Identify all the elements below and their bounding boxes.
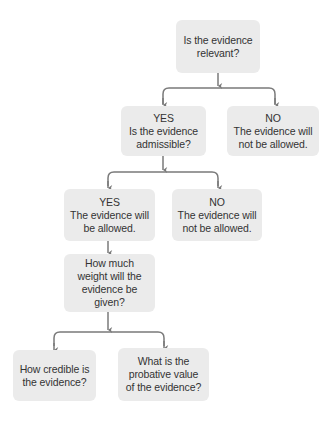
flowchart-diagram: Is the evidence relevant? YES Is the evi…	[0, 0, 331, 424]
node-text-line: Is the evidence	[183, 34, 252, 47]
node-yes-is-admissible: YES Is the evidence admissible?	[121, 106, 206, 156]
node-no-not-admissible-not-allowed: NO The evidence will not be allowed.	[172, 189, 262, 241]
node-is-relevant: Is the evidence relevant?	[176, 20, 260, 73]
node-text-line: not be allowed.	[182, 222, 251, 235]
node-text-line: YES	[153, 112, 174, 125]
node-text-line: What is the	[138, 355, 189, 368]
node-how-credible: How credible is the evidence?	[13, 350, 96, 401]
node-text-line: be allowed.	[83, 222, 135, 235]
node-text-line: How much	[85, 257, 134, 270]
node-yes-allowed: YES The evidence will be allowed.	[64, 189, 155, 241]
node-no-not-relevant-not-allowed: NO The evidence will not be allowed.	[227, 106, 319, 156]
node-text-line: given?	[94, 296, 124, 309]
node-text-line: The evidence will	[234, 125, 313, 138]
node-text-line: not be allowed.	[238, 138, 307, 151]
node-text-line: Is the evidence	[129, 125, 198, 138]
connector-weight-branch	[54, 332, 164, 346]
node-text-line: The evidence will	[178, 209, 257, 222]
node-text-line: relevant?	[197, 47, 239, 60]
node-text-line: The evidence will	[70, 209, 149, 222]
node-how-much-weight: How much weight will the evidence be giv…	[64, 254, 155, 312]
node-text-line: evidence be	[82, 283, 138, 296]
node-text-line: NO	[265, 112, 281, 125]
node-text-line: weight will the	[78, 270, 142, 283]
node-text-line: admissible?	[136, 138, 190, 151]
node-probative-value: What is the probative value of the evide…	[118, 348, 209, 401]
node-text-line: of the evidence?	[126, 381, 201, 394]
node-text-line: probative value	[129, 368, 199, 381]
node-text-line: the evidence?	[22, 376, 86, 389]
connector-relevant-branch	[163, 88, 275, 104]
node-text-line: How credible is	[20, 363, 90, 376]
node-text-line: YES	[99, 196, 120, 209]
connector-admissible-branch	[108, 172, 218, 186]
node-text-line: NO	[209, 196, 225, 209]
